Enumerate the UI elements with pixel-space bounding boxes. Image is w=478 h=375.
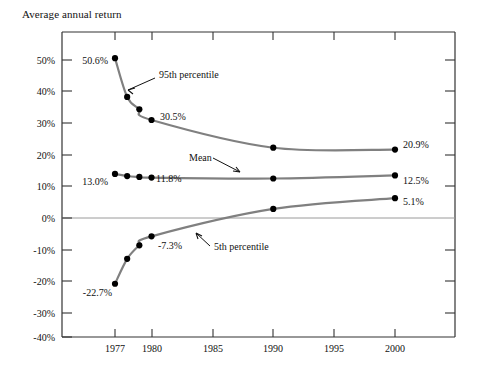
- data-point: [392, 195, 398, 201]
- x-tick-label: 2000: [385, 343, 405, 354]
- data-point: [392, 172, 398, 178]
- data-point: [112, 171, 118, 177]
- data-point: [124, 256, 130, 262]
- y-tick-label: 20%: [37, 150, 55, 161]
- data-label-95th-2000: 20.9%: [403, 139, 429, 150]
- x-tick-label: 1995: [324, 343, 344, 354]
- chart-root: Average annual return: [0, 0, 478, 375]
- y-tick-label: -40%: [33, 332, 55, 343]
- data-point: [124, 94, 130, 100]
- data-label-5th-1980: -7.3%: [158, 240, 182, 251]
- data-label-mean-1980: 11.8%: [156, 173, 181, 184]
- data-label-mean-1977: 13.0%: [82, 176, 108, 187]
- series-layer: [112, 55, 398, 287]
- data-point: [136, 106, 142, 112]
- y-tick-label: 50%: [37, 55, 55, 66]
- y-tick-label: 10%: [37, 181, 55, 192]
- data-point: [270, 145, 276, 151]
- y-tick-label: 0%: [42, 213, 55, 224]
- series-line: [115, 58, 395, 150]
- y-tick-label: -30%: [33, 308, 55, 319]
- y-tick-label: -10%: [33, 245, 55, 256]
- data-point: [270, 206, 276, 212]
- arrow-mean: [213, 158, 240, 172]
- data-point: [124, 173, 130, 179]
- x-axis-tick-labels: 1977 1980 1985 1990 1995 2000: [105, 343, 405, 354]
- data-point: [136, 242, 142, 248]
- data-point: [136, 174, 142, 180]
- x-tick-label: 1977: [105, 343, 125, 354]
- arrowhead-mean: [233, 167, 240, 172]
- x-tick-label: 1985: [203, 343, 223, 354]
- data-label-mean-2000: 12.5%: [403, 175, 429, 186]
- x-tick-label: 1990: [263, 343, 283, 354]
- annotation-mean: Mean: [189, 152, 212, 163]
- y-tick-label: 40%: [37, 86, 55, 97]
- chart-plot-area: 50% 40% 30% 20% 10% 0% -10% -20% -30% -4…: [0, 0, 478, 375]
- data-point: [392, 146, 398, 152]
- annotation-95th-percentile: 95th percentile: [159, 69, 219, 80]
- data-point: [270, 175, 276, 181]
- data-label-95th-1977: 50.6%: [82, 55, 108, 66]
- y-axis-tick-labels: 50% 40% 30% 20% 10% 0% -10% -20% -30% -4…: [33, 55, 55, 343]
- data-label-95th-1980: 30.5%: [160, 111, 186, 122]
- data-point: [148, 174, 154, 180]
- series-mean: [112, 171, 398, 182]
- x-axis-ticks: [115, 329, 395, 337]
- y-tick-label: 30%: [37, 118, 55, 129]
- series-95th-percentile: [112, 55, 398, 153]
- y-axis-ticks: [62, 60, 72, 337]
- arrow-95th-percentile: [128, 78, 155, 90]
- annotation-labels: 95th percentile Mean 5th percentile: [159, 69, 269, 252]
- arrowhead-95th-percentile: [128, 88, 135, 94]
- data-point: [112, 55, 118, 61]
- x-tick-label: 1980: [142, 343, 162, 354]
- data-label-5th-2000: 5.1%: [403, 196, 424, 207]
- annotation-arrows: [128, 78, 240, 246]
- data-point: [112, 281, 118, 287]
- annotation-5th-percentile: 5th percentile: [214, 241, 269, 252]
- y-axis-ticks-right: [445, 60, 455, 313]
- y-tick-label: -20%: [33, 276, 55, 287]
- arrow-5th-percentile: [196, 233, 210, 246]
- x-axis-ticks-top: [115, 32, 395, 40]
- data-point: [148, 117, 154, 123]
- data-label-5th-1977: -22.7%: [83, 287, 112, 298]
- data-point: [148, 233, 154, 239]
